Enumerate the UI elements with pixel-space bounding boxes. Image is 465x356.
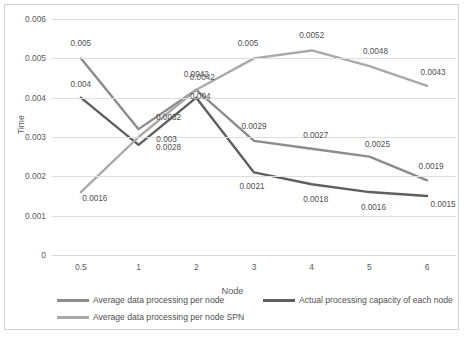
y-axis-tick-label: 0.001: [25, 211, 46, 221]
data-point-label: 0.0052: [299, 31, 324, 40]
data-point-label: 0.004: [71, 79, 92, 88]
legend-item[interactable]: Average data processing per node SPN: [57, 312, 244, 322]
data-point-label: 0.0021: [239, 182, 264, 191]
data-point-label: 0.0028: [156, 142, 181, 151]
data-point-label: 0.0019: [419, 162, 444, 171]
x-axis-tick-label: 1: [136, 262, 141, 272]
y-axis-tick-label: 0: [41, 250, 46, 260]
legend-color-swatch: [57, 299, 89, 302]
data-point-label: 0.0029: [241, 121, 266, 130]
chart-figure: Time 00.0010.0020.0030.0040.0050.0060.51…: [0, 0, 465, 356]
y-axis-tick-label: 0.005: [25, 53, 46, 63]
gridline: [52, 137, 456, 138]
legend-label: Average data processing per node: [93, 295, 224, 305]
gridline: [52, 19, 456, 20]
x-axis-line: [52, 255, 456, 256]
x-axis-tick-label: 6: [425, 262, 430, 272]
data-point-label: 0.0016: [82, 194, 107, 203]
data-point-label: 0.0043: [421, 67, 446, 76]
legend-label: Average data processing per node SPN: [93, 312, 244, 322]
legend-item[interactable]: Average data processing per node: [57, 295, 224, 305]
gridline: [52, 176, 456, 177]
x-axis-tick-label: 3: [252, 262, 257, 272]
data-point-label: 0.0016: [361, 203, 386, 212]
gridline: [52, 216, 456, 217]
x-axis-tick-label: 4: [309, 262, 314, 272]
legend-color-swatch: [57, 316, 89, 319]
data-point-label: 0.0025: [365, 139, 390, 148]
y-axis-tick-label: 0.004: [25, 93, 46, 103]
data-point-label: 0.0048: [363, 47, 388, 56]
series-line: [81, 58, 427, 180]
data-point-label: 0.003: [156, 135, 177, 144]
legend-item[interactable]: Actual processing capacity of each node: [263, 295, 453, 305]
chart-frame: Time 00.0010.0020.0030.0040.0050.0060.51…: [4, 4, 459, 330]
legend-label: Actual processing capacity of each node: [299, 295, 453, 305]
data-point-label: 0.0018: [303, 195, 328, 204]
data-point-label: 0.005: [71, 39, 92, 48]
y-axis-tick-label: 0.002: [25, 171, 46, 181]
x-axis-tick-label: 2: [194, 262, 199, 272]
legend-color-swatch: [263, 299, 295, 302]
gridline: [52, 58, 456, 59]
plot-area: 00.0010.0020.0030.0040.0050.0060.5123456…: [52, 19, 456, 255]
x-axis-tick-label: 5: [367, 262, 372, 272]
gridline: [52, 98, 456, 99]
x-axis-tick-label: 0.5: [75, 262, 87, 272]
data-point-label: 0.0042: [184, 69, 209, 78]
data-point-label: 0.0015: [431, 200, 456, 209]
data-point-label: 0.005: [238, 39, 259, 48]
data-point-label: 0.0027: [303, 130, 328, 139]
y-axis-tick-label: 0.003: [25, 132, 46, 142]
data-point-label: 0.0032: [156, 113, 181, 122]
y-axis-tick-label: 0.006: [25, 14, 46, 24]
data-point-label: 0.004: [190, 91, 211, 100]
